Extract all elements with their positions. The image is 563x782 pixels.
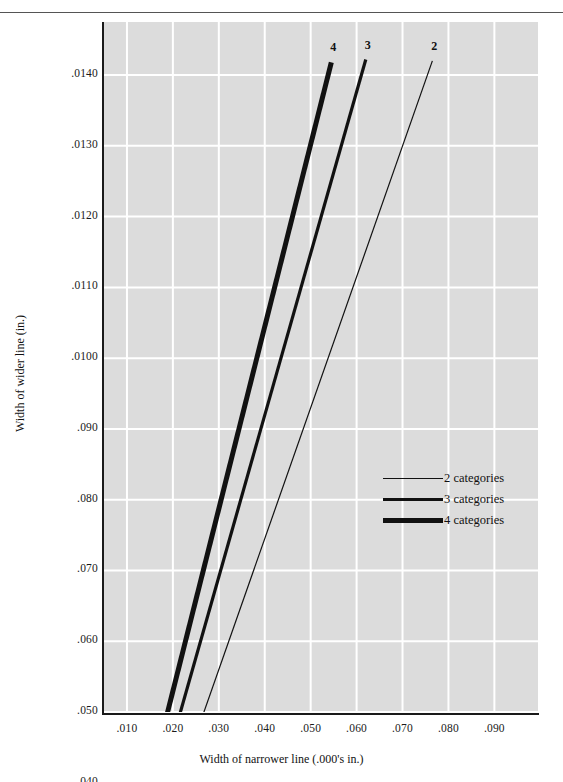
legend-label: 3 categories — [443, 492, 504, 507]
y-tick-label: .060 — [32, 633, 98, 645]
series-line — [127, 60, 366, 712]
series-end-label: 3 — [365, 37, 371, 52]
x-tick-label: .090 — [464, 722, 524, 734]
series-end-label: 2 — [431, 38, 437, 53]
y-axis-line — [102, 22, 104, 714]
y-tick-labels: .0140.0130.0120.0110.0100.090.080.070.06… — [28, 0, 98, 782]
series-line — [127, 62, 331, 712]
y-tick-label: .040 — [32, 775, 98, 782]
y-tick-label: .050 — [32, 704, 98, 716]
y-tick-label: .0120 — [32, 209, 98, 221]
y-tick-label: .080 — [32, 492, 98, 504]
series-end-label: 4 — [330, 40, 336, 55]
y-tick-label: .0110 — [32, 279, 98, 291]
legend-label: 4 categories — [443, 513, 504, 528]
x-axis-title: Width of narrower line (.000's in.) — [0, 752, 563, 767]
legend-label: 2 categories — [443, 471, 504, 486]
plot-wrapper — [104, 22, 538, 712]
y-tick-label: .070 — [32, 562, 98, 574]
y-tick-label: .090 — [32, 421, 98, 433]
legend: 2 categories3 categories4 categories — [383, 468, 543, 531]
legend-line-swatch — [383, 518, 443, 523]
legend-item: 4 categories — [383, 510, 543, 531]
legend-line-swatch — [383, 498, 443, 501]
plot-svg — [104, 22, 538, 712]
legend-line-swatch — [383, 478, 443, 479]
x-tick-labels: .010.020.030.040.050.060.070.080.090 — [0, 722, 563, 742]
y-tick-label: .0100 — [32, 350, 98, 362]
y-tick-label: .0140 — [32, 67, 98, 79]
legend-item: 3 categories — [383, 489, 543, 510]
y-axis-title: Width of wider line (in.) — [13, 269, 28, 479]
figure: .0140.0130.0120.0110.0100.090.080.070.06… — [0, 0, 563, 782]
y-tick-label: .0130 — [32, 138, 98, 150]
legend-item: 2 categories — [383, 468, 543, 489]
x-axis-line — [102, 713, 539, 715]
